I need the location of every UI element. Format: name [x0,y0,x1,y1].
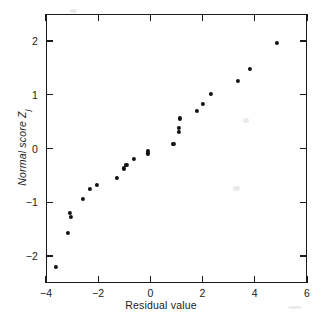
y-axis-tick-label: 2 [20,35,38,47]
y-axis-tick [46,255,53,256]
y-axis-tick [46,94,53,95]
y-axis-tick [46,40,53,41]
x-axis-tick-top [45,14,46,21]
y-axis-tick-right [300,148,307,149]
y-axis-label-text: Normal score Z [16,111,28,186]
x-axis-tick-top [306,14,307,21]
y-axis-tick-right [300,255,307,256]
x-axis-tick [45,276,46,283]
y-axis-tick-right [300,40,307,41]
plot-area [46,14,307,283]
x-axis-tick [202,276,203,283]
x-axis-tick [306,276,307,283]
y-axis-tick-label: −2 [20,250,38,262]
y-axis-label-subscript: j [23,109,32,111]
x-axis-tick-top [150,14,151,21]
y-axis-tick [46,202,53,203]
x-axis-tick [98,276,99,283]
normal-probability-plot-figure: −4−20246−2−1012 Residual value Normal sc… [0,0,322,320]
y-axis-tick-right [300,202,307,203]
x-axis-tick-label: −4 [40,287,52,299]
x-axis-tick [150,276,151,283]
y-axis-tick-right [300,94,307,95]
x-axis-tick-top [254,14,255,21]
x-axis-tick-label: 2 [200,287,206,299]
x-axis-tick-label: −2 [92,287,104,299]
x-axis-tick-label: 6 [304,287,310,299]
x-axis-label: Residual value [0,299,322,311]
y-axis-label: Normal score Zj [16,68,31,228]
x-axis-tick [254,276,255,283]
x-axis-tick-label: 4 [252,287,258,299]
x-axis-tick-label: 0 [147,287,153,299]
x-axis-tick-top [202,14,203,21]
y-axis-tick [46,148,53,149]
x-axis-tick-top [98,14,99,21]
scan-speckle [70,9,77,13]
